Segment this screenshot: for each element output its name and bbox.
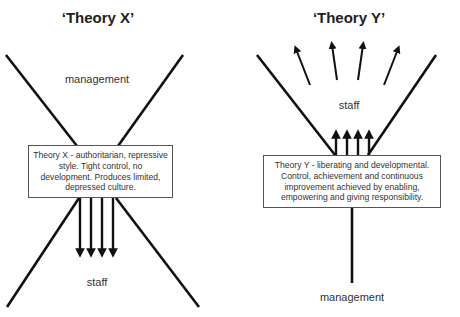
theory-x-management-label: management (65, 73, 129, 85)
theory-y-fan-arrows (296, 45, 398, 85)
theory-x-description: Theory X - authoritarian, repressive sty… (33, 150, 168, 192)
theory-x-description-box: Theory X - authoritarian, repressive sty… (28, 145, 173, 198)
theory-x-title: ‘Theory X’ (62, 9, 135, 26)
theory-x-staff-label: staff (87, 276, 108, 288)
theory-y-up-arrows (336, 134, 369, 155)
theory-y-management-label: management (320, 291, 384, 303)
theory-y-staff-label: staff (339, 99, 360, 111)
theory-y-title: ‘Theory Y’ (313, 9, 385, 26)
theory-x-down-arrows (80, 198, 113, 253)
theory-y-description-box: Theory Y - liberating and developmental.… (263, 155, 441, 208)
theory-y-description: Theory Y - liberating and developmental.… (268, 160, 436, 202)
